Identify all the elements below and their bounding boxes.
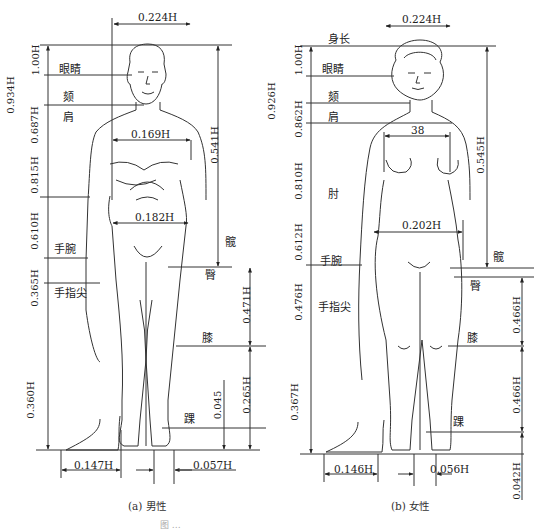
female-ratio-810: 0.810H xyxy=(294,162,304,199)
male-head-width-label: 0.224H xyxy=(138,12,177,23)
male-foot-length-label: 0.147H xyxy=(74,460,113,471)
male-ratio-365: 0.365H xyxy=(30,269,40,306)
male-hip-label: 髋 xyxy=(225,237,236,248)
male-right-265: 0.265H xyxy=(242,376,252,413)
male-wrist-label: 手腕 xyxy=(54,244,76,255)
female-ankle-label: 踝 xyxy=(453,417,464,428)
male-fingertip-label: 手指尖 xyxy=(54,288,87,299)
male-knee-label: 膝 xyxy=(202,333,213,344)
male-right-471: 0.471H xyxy=(242,286,252,323)
male-ratio-610: 0.610H xyxy=(30,212,40,249)
female-chin-label: 颏 xyxy=(328,92,339,103)
female-right-545: 0.545H xyxy=(476,136,486,173)
female-height-label: 身长 xyxy=(328,34,350,45)
female-eye-label: 眼睛 xyxy=(322,64,344,75)
female-knee-label: 膝 xyxy=(467,333,478,344)
male-ankle-label: 踝 xyxy=(184,414,195,425)
female-ratio-476: 0.476H xyxy=(294,283,304,320)
figure-caption-truncated: 图 … xyxy=(160,518,181,531)
female-ratio-926: 0.926H xyxy=(267,82,277,119)
female-right-042: 0.042H xyxy=(512,462,522,499)
female-ratio-367: 0.367H xyxy=(290,383,300,420)
female-foot-width-label: 0.056H xyxy=(430,464,469,475)
male-buttock-label: 臀 xyxy=(205,270,216,281)
male-hip-width-label: 0.182H xyxy=(135,212,174,223)
female-hip-label: 髋 xyxy=(493,252,504,263)
female-shoulder-label: 肩 xyxy=(328,112,339,123)
male-ratio-687: 0.687H xyxy=(30,106,40,143)
female-head-width-label: 0.224H xyxy=(402,14,441,25)
female-ratio-612: 0.612H xyxy=(294,223,304,260)
male-right-541: 0.541H xyxy=(210,126,220,163)
male-ratio-815: 0.815H xyxy=(30,156,40,193)
female-right-466b: 0.466H xyxy=(512,376,522,413)
female-ratio-862: 0.862H xyxy=(294,100,304,137)
female-figure xyxy=(326,40,470,452)
male-foot-width-label: 0.057H xyxy=(193,460,232,471)
female-chest-width-label: 38 xyxy=(411,125,424,136)
female-buttock-label: 臀 xyxy=(470,281,481,292)
male-ratio-934: 0.934H xyxy=(6,76,16,113)
male-shoulder-label: 肩 xyxy=(63,112,74,123)
female-foot-length-label: 0.146H xyxy=(334,464,373,475)
male-chest-width-label: 0.169H xyxy=(131,129,170,140)
female-hip-width-label: 0.202H xyxy=(402,220,441,231)
male-caption: (a) 男性 xyxy=(128,498,166,513)
female-ratio-100: 1.00H xyxy=(294,45,304,76)
male-ratio-100: 1.00H xyxy=(31,45,41,76)
female-wrist-label: 手腕 xyxy=(320,256,342,267)
female-fingertip-label: 手指尖 xyxy=(318,302,351,313)
female-elbow-label: 肘 xyxy=(328,189,339,200)
male-eye-label: 眼睛 xyxy=(59,64,81,75)
male-chin-label: 颏 xyxy=(63,92,74,103)
male-ratio-360: 0.360H xyxy=(26,381,36,418)
male-right-045: 0.045 xyxy=(213,391,223,420)
female-right-466a: 0.466H xyxy=(512,296,522,333)
female-caption: (b) 女性 xyxy=(391,498,429,513)
